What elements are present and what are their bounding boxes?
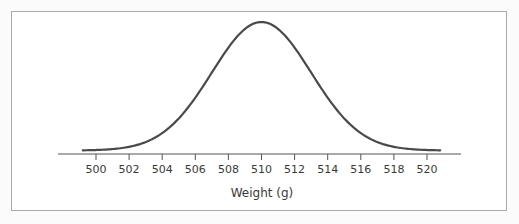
x-tick-label: 510 <box>251 163 272 176</box>
x-axis-title: Weight (g) <box>231 186 294 200</box>
x-tick-label: 504 <box>152 163 173 176</box>
x-tick-label: 500 <box>86 163 107 176</box>
normal-curve <box>83 22 440 150</box>
x-tick-label: 516 <box>350 163 371 176</box>
x-tick-label: 518 <box>383 163 404 176</box>
x-tick-label: 520 <box>417 163 438 176</box>
x-tick-label: 506 <box>185 163 206 176</box>
x-tick-label: 514 <box>317 163 338 176</box>
x-tick-label: 508 <box>218 163 239 176</box>
x-axis-ticks <box>96 154 427 160</box>
normal-distribution-chart: 500502504506508510512514516518520 Weight… <box>0 0 519 224</box>
x-axis-tick-labels: 500502504506508510512514516518520 <box>86 163 438 176</box>
x-tick-label: 502 <box>119 163 140 176</box>
x-tick-label: 512 <box>284 163 305 176</box>
